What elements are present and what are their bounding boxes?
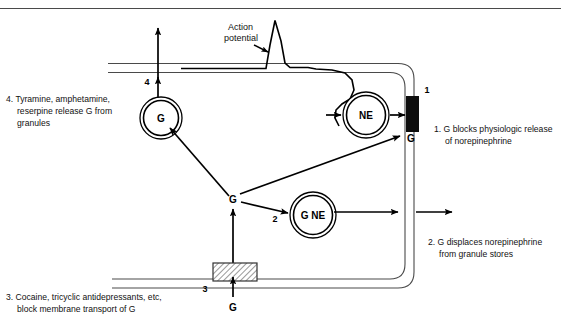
action-potential-label-line1: Action — [228, 22, 253, 32]
caption-3-line-2: block membrane transport of G — [17, 304, 136, 314]
free-transmitter-g-label: G — [229, 194, 237, 205]
marker-1: 1 — [424, 85, 429, 95]
uptake-g-label: G — [229, 302, 237, 313]
caption-4-line-3: granules — [17, 118, 50, 128]
caption-1-line-1: 1. G blocks physiologic release — [434, 124, 553, 134]
caption-2-line-2: from granule stores — [439, 249, 513, 259]
arrow-g-to-upper-granule — [170, 128, 229, 196]
caption-3-line-1: 3. Cocaine, tricyclic antidepressants, e… — [6, 292, 162, 302]
caption-4-line-1: 4. Tyramine, amphetamine, — [6, 94, 110, 104]
action-potential-label-line2: potential — [224, 33, 258, 43]
action-potential-trace — [181, 21, 354, 127]
granule-upper-left-label: G — [157, 113, 165, 124]
marker-3: 3 — [202, 284, 207, 294]
marker-4: 4 — [144, 77, 149, 87]
ne-vesicle-label: NE — [359, 110, 373, 121]
caption-1-line-2: of norepinephrine — [445, 136, 512, 146]
membrane-transporter-block — [213, 263, 257, 281]
arrow-g-to-gne-granule — [241, 202, 288, 213]
g-ne-granule-label: G NE — [301, 210, 326, 221]
arrow-g-to-release-site — [240, 136, 400, 194]
action-potential-leader-arrow — [254, 45, 268, 52]
marker-2: 2 — [272, 214, 277, 224]
nerve-terminal-diagram: Action potential 4 G G 2 G NE — [0, 0, 561, 317]
figure-canvas: Action potential 4 G G 2 G NE — [0, 0, 561, 317]
release-site-g-label: G — [407, 133, 415, 144]
release-site-block — [406, 96, 419, 132]
caption-4-line-2: reserpine release G from — [17, 106, 112, 116]
caption-2-line-1: 2. G displaces norepinephrine — [428, 237, 542, 247]
